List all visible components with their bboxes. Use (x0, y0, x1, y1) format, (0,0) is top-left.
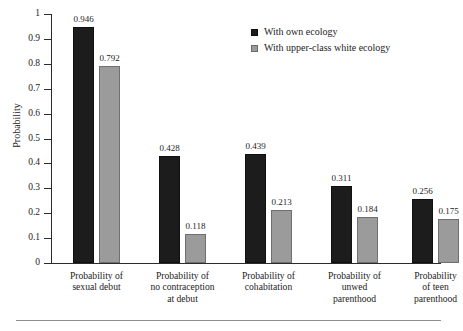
legend-item[interactable]: With upper-class white ecology (251, 42, 390, 54)
bar-value-label: 0.946 (66, 15, 101, 24)
y-axis-tick-label: 0.2 (10, 208, 40, 218)
y-axis-tick (44, 64, 51, 65)
bar-value-label: 0.428 (152, 144, 187, 153)
bar-upper-class-white-ecology[interactable] (185, 234, 206, 263)
y-axis-tick (44, 89, 51, 90)
y-axis-title: Probability (11, 86, 22, 166)
y-axis-tick-label: 0 (10, 258, 40, 268)
bar-own-ecology[interactable] (331, 186, 352, 263)
bottom-divider-rule (16, 320, 441, 321)
bar-value-label: 0.118 (178, 222, 213, 231)
bar-value-label: 0.311 (324, 174, 359, 183)
y-axis-tick (44, 263, 51, 264)
y-axis-tick (44, 188, 51, 189)
y-axis-tick-label: 1 (10, 9, 40, 19)
bar-value-label: 0.184 (350, 205, 385, 214)
legend-label: With own ecology (264, 27, 337, 37)
x-axis-category-label: Probability of no contraception at debut (139, 270, 227, 304)
y-axis-tick-label: 0.8 (10, 59, 40, 69)
y-axis-tick-label: 0.1 (10, 233, 40, 243)
legend-swatch-icon (251, 45, 258, 52)
bar-value-label: 0.256 (405, 187, 440, 196)
y-axis-tick (44, 14, 51, 15)
bar-own-ecology[interactable] (73, 27, 94, 263)
y-axis-tick (44, 139, 51, 140)
y-axis-tick (44, 39, 51, 40)
y-axis-tick-label: 0.9 (10, 34, 40, 44)
bar-upper-class-white-ecology[interactable] (99, 66, 120, 263)
y-axis-tick-label: 0.3 (10, 183, 40, 193)
bar-value-label: 0.213 (264, 198, 299, 207)
bar-value-label: 0.792 (92, 54, 127, 63)
y-axis-tick (44, 213, 51, 214)
y-axis-tick (44, 238, 51, 239)
bar-own-ecology[interactable] (159, 156, 180, 263)
bar-upper-class-white-ecology[interactable] (357, 217, 378, 263)
bar-value-label: 0.439 (238, 142, 273, 151)
legend-item[interactable]: With own ecology (251, 26, 390, 38)
y-axis-tick (44, 114, 51, 115)
x-axis-category-label: Probability of teen parenthood (392, 270, 463, 304)
y-axis-tick (44, 163, 51, 164)
bar-upper-class-white-ecology[interactable] (438, 219, 459, 263)
legend-label: With upper-class white ecology (264, 43, 390, 53)
x-axis-category-label: Probability of cohabitation (225, 270, 313, 293)
bar-value-label: 0.175 (431, 207, 463, 216)
bar-own-ecology[interactable] (245, 154, 266, 263)
bar-own-ecology[interactable] (412, 199, 433, 263)
x-axis-category-label: Probability of sexual debut (53, 270, 141, 293)
x-axis-category-label: Probability of unwed parenthood (311, 270, 399, 304)
x-axis-line (51, 263, 441, 264)
chart-legend: With own ecologyWith upper-class white e… (251, 26, 390, 58)
bar-upper-class-white-ecology[interactable] (271, 210, 292, 263)
legend-swatch-icon (251, 29, 258, 36)
